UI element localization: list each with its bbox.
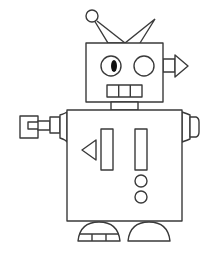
right-arm-stub [182, 112, 199, 142]
antenna [86, 10, 155, 43]
head-ear [163, 55, 188, 77]
pupil-icon [111, 60, 117, 72]
robot-head [86, 43, 163, 102]
robot-body [67, 110, 182, 221]
right-foot [128, 222, 170, 241]
robot-drawing [0, 0, 210, 266]
panel-bar [135, 129, 147, 170]
panel-circle-icon [135, 191, 147, 203]
robot-neck [111, 102, 138, 110]
left-foot [78, 222, 120, 241]
antenna-ball-icon [86, 10, 98, 22]
left-arm-claw [20, 112, 67, 142]
right-eye-icon [134, 56, 154, 76]
panel-bar [101, 129, 113, 170]
mouth [107, 85, 142, 97]
panel-circle-icon [135, 175, 147, 187]
